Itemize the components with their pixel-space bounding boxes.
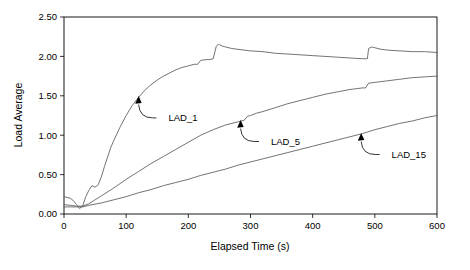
y-tick-label: 0.00 — [39, 208, 58, 219]
x-tick-label: 600 — [429, 220, 445, 231]
x-tick-label: 500 — [367, 220, 383, 231]
annotation-label-lad_5: LAD_5 — [271, 136, 300, 147]
chart-background — [0, 0, 470, 270]
y-tick-label: 1.00 — [39, 130, 58, 141]
y-tick-label: 1.50 — [39, 90, 58, 101]
x-tick-label: 0 — [61, 220, 66, 231]
x-tick-label: 400 — [305, 220, 321, 231]
y-tick-label: 2.50 — [39, 11, 58, 22]
y-tick-label: 0.50 — [39, 169, 58, 180]
x-tick-label: 200 — [180, 220, 196, 231]
y-tick-label: 2.00 — [39, 51, 58, 62]
x-axis-title: Elapsed Time (s) — [211, 240, 290, 252]
annotation-label-lad_15: LAD_15 — [392, 149, 426, 160]
annotation-label-lad_1: LAD_1 — [168, 112, 197, 123]
x-tick-label: 100 — [118, 220, 134, 231]
load-average-line-chart: 0.000.501.001.502.002.50 010020030040050… — [0, 0, 470, 270]
y-axis-title: Load Average — [12, 83, 24, 148]
x-tick-label: 300 — [243, 220, 259, 231]
